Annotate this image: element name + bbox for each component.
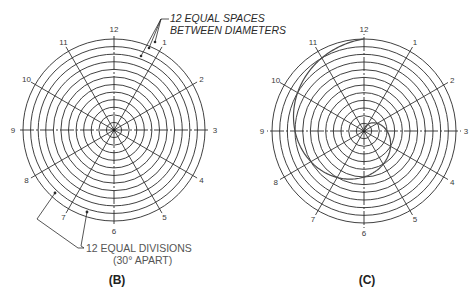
clock-division-label: 4	[450, 178, 455, 187]
radial-division-line	[316, 131, 365, 215]
note-equal-divisions-line2: (30° APART)	[113, 254, 172, 266]
clock-division-label: 4	[199, 176, 204, 185]
caption-b: (B)	[109, 273, 126, 287]
clock-division-label: 5	[162, 213, 167, 222]
radial-division-line	[31, 130, 114, 178]
clock-division-label: 9	[260, 127, 265, 136]
clock-division-label: 10	[271, 76, 280, 85]
note-equal-spaces-line1: 12 EQUAL SPACES	[170, 12, 265, 24]
clock-division-label: 2	[199, 75, 204, 84]
figure-b-polar-grid: 121234567891011	[11, 25, 218, 236]
radial-division-line	[280, 131, 364, 180]
clock-division-label: 1	[413, 38, 418, 47]
radial-division-line	[364, 47, 413, 131]
arrowhead-icon	[154, 41, 157, 44]
radial-division-line	[114, 82, 197, 130]
point-marker-icon	[54, 192, 57, 195]
clock-division-label: 8	[24, 176, 29, 185]
radial-division-line	[364, 131, 448, 180]
center-point-icon	[112, 128, 115, 131]
radial-division-line	[114, 130, 162, 213]
radial-division-line	[280, 83, 364, 132]
clock-division-label: 3	[464, 127, 469, 136]
arrowhead-icon	[148, 47, 151, 50]
clock-division-label: 6	[112, 227, 117, 236]
clock-division-label: 12	[110, 25, 119, 34]
figure-c-spiral-grid: 121234567891011	[260, 25, 469, 238]
note-equal-spaces-line2: BETWEEN DIAMETERS	[170, 24, 286, 36]
note-equal-divisions-line1: 12 EQUAL DIVISIONS	[86, 242, 192, 254]
radial-division-line	[114, 47, 162, 130]
caption-c: (C)	[359, 273, 376, 287]
point-marker-icon	[86, 211, 89, 214]
spiral-construction-figure: 121234567891011 121234567891011 12 EQUAL…	[0, 0, 476, 296]
clock-division-label: 10	[22, 75, 31, 84]
clock-division-label: 3	[213, 126, 218, 135]
clock-division-label: 5	[413, 215, 418, 224]
radial-division-line	[364, 131, 413, 215]
clock-division-label: 11	[309, 38, 318, 47]
clock-division-label: 12	[360, 25, 369, 34]
clock-division-label: 1	[162, 38, 167, 47]
radial-division-line	[316, 47, 365, 131]
clock-division-label: 9	[11, 126, 16, 135]
radial-division-line	[66, 130, 114, 213]
radial-division-line	[114, 130, 197, 178]
clock-division-label: 8	[273, 178, 278, 187]
clock-division-label: 11	[59, 38, 68, 47]
arrowhead-icon	[140, 55, 143, 58]
radial-division-line	[31, 82, 114, 130]
clock-division-label: 6	[362, 229, 367, 238]
clock-division-label: 2	[450, 76, 455, 85]
clock-division-label: 7	[311, 215, 316, 224]
clock-division-label: 7	[61, 213, 66, 222]
radial-division-line	[66, 47, 114, 130]
